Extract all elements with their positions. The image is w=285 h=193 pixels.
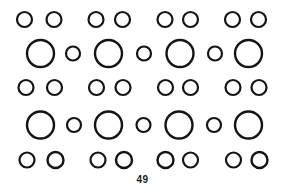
- page-number: 49: [0, 174, 285, 186]
- circle-small-r5c7: [226, 153, 241, 168]
- row-3-small-pairs: [19, 80, 267, 95]
- circle-small-r3c1: [19, 80, 34, 95]
- circle-small-r3c3: [89, 80, 104, 95]
- circle-small-r4c6: [207, 118, 221, 132]
- circle-small-r5c1: [20, 153, 35, 168]
- circle-small-r2c4: [137, 47, 151, 61]
- circle-small-r1c4: [115, 12, 130, 27]
- circles-group: [17, 12, 268, 168]
- circle-small-r4c4: [137, 118, 151, 132]
- circle-small-r3c4: [116, 80, 131, 95]
- circle-large-r4c7: [235, 112, 262, 139]
- circle-small-r2c2: [66, 47, 80, 61]
- row-4-alternating: [27, 112, 262, 139]
- circle-large-r4c1: [27, 112, 54, 139]
- circle-small-r1c6: [183, 12, 198, 27]
- circle-small-r3c8: [252, 80, 267, 95]
- circle-large-r4c3: [95, 112, 122, 139]
- circle-large-r2c7: [235, 40, 262, 67]
- circle-small-r3c6: [183, 80, 198, 95]
- circle-small-r1c5: [158, 12, 173, 27]
- scanned-page: 49: [0, 0, 285, 193]
- row-2-alternating: [27, 40, 262, 67]
- row-1-small-pairs: [17, 12, 266, 27]
- circle-large-r4c5: [166, 112, 193, 139]
- circle-small-r5c2: [48, 152, 64, 168]
- circle-small-r3c2: [47, 80, 62, 95]
- circle-small-r5c4: [116, 152, 132, 168]
- circle-small-r5c6: [183, 153, 198, 168]
- circle-large-r2c5: [167, 40, 194, 67]
- circle-small-r5c3: [91, 153, 106, 168]
- circle-large-r2c1: [27, 40, 54, 67]
- circle-small-r5c8: [252, 152, 268, 168]
- circle-small-r5c5: [158, 152, 174, 168]
- circle-pattern-figure: [0, 0, 285, 193]
- circle-small-r3c5: [158, 80, 173, 95]
- circle-small-r1c8: [251, 12, 266, 27]
- row-5-small-pairs: [20, 152, 268, 168]
- circle-small-r1c1: [17, 12, 32, 27]
- circle-small-r3c7: [226, 80, 241, 95]
- circle-small-r1c3: [89, 12, 104, 27]
- circle-large-r2c3: [95, 40, 122, 67]
- circle-small-r1c7: [225, 12, 240, 27]
- circle-small-r2c6: [208, 47, 222, 61]
- circle-small-r1c2: [47, 12, 62, 27]
- circle-small-r4c2: [67, 118, 81, 132]
